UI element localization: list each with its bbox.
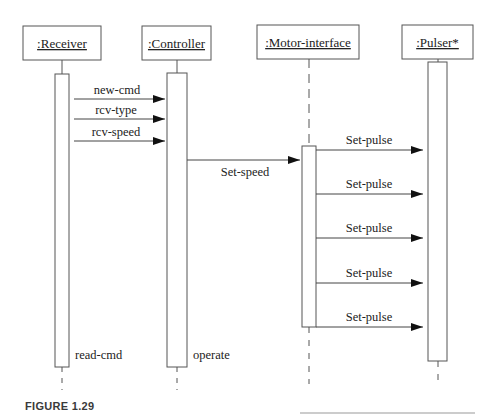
message-new-cmd: new-cmd <box>74 83 165 99</box>
object-motor-interface: :Motor-interface <box>257 25 359 384</box>
message-set-pulse-5: Set-pulse <box>316 310 423 327</box>
message-set-pulse-1: Set-pulse <box>316 133 423 150</box>
object-pulser: :Pulser* <box>402 25 473 384</box>
message-label: Set-pulse <box>346 177 393 191</box>
message-set-speed: Set-speed <box>187 160 300 179</box>
object-label-receiver: :Receiver <box>37 36 87 51</box>
message-label: Set-speed <box>221 165 270 179</box>
activation-receiver <box>55 74 69 367</box>
activation-controller <box>167 73 187 367</box>
message-label: new-cmd <box>94 83 141 97</box>
message-rcv-type: rcv-type <box>74 103 165 119</box>
activation-label-controller: operate <box>193 348 230 362</box>
message-label: Set-pulse <box>346 133 393 147</box>
sequence-diagram: :Receiver read-cmd :Controller operate :… <box>0 0 495 416</box>
object-label-pulser: :Pulser* <box>416 35 459 50</box>
object-label-controller: :Controller <box>148 36 206 51</box>
message-label: Set-pulse <box>346 221 393 235</box>
message-set-pulse-3: Set-pulse <box>316 221 423 238</box>
object-label-motor-interface: :Motor-interface <box>265 35 351 50</box>
object-controller: :Controller operate <box>142 26 230 390</box>
message-label: Set-pulse <box>346 310 393 324</box>
message-set-pulse-4: Set-pulse <box>316 266 423 283</box>
activation-pulser <box>428 62 447 361</box>
object-receiver: :Receiver read-cmd <box>23 26 123 390</box>
figure-caption: FIGURE 1.29 <box>25 400 94 412</box>
activation-motor-interface <box>302 146 316 327</box>
message-label: rcv-speed <box>92 125 141 139</box>
message-set-pulse-2: Set-pulse <box>316 177 423 194</box>
activation-label-receiver: read-cmd <box>75 348 123 362</box>
message-label: Set-pulse <box>346 266 393 280</box>
message-label: rcv-type <box>95 103 137 117</box>
message-rcv-speed: rcv-speed <box>74 125 165 141</box>
